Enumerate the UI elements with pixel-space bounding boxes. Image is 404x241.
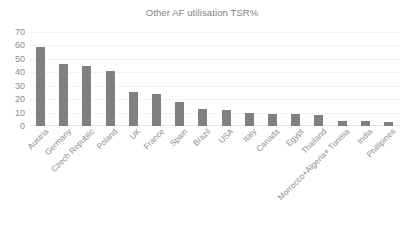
bar xyxy=(384,122,393,126)
bar xyxy=(129,92,138,126)
x-axis-tick-label: India xyxy=(356,127,375,146)
x-axis-tick-label: Poland xyxy=(95,127,119,151)
y-axis-tick-label: 60 xyxy=(0,41,25,50)
x-axis: AustriaGermanyCzech RepublicPolandUKFran… xyxy=(29,127,400,237)
y-axis-tick-label: 50 xyxy=(0,54,25,63)
x-axis-tick-label: France xyxy=(142,127,166,151)
y-axis: 010203040506070 xyxy=(0,32,25,126)
bar xyxy=(268,114,277,126)
bar xyxy=(222,110,231,126)
x-axis-tick-label: UK xyxy=(128,127,142,141)
y-axis-tick-label: 10 xyxy=(0,108,25,117)
x-axis-tick-label: Italy xyxy=(242,127,259,144)
bar xyxy=(245,113,254,126)
y-axis-tick-label: 30 xyxy=(0,81,25,90)
bar xyxy=(59,64,68,126)
x-axis-tick-label: USA xyxy=(217,127,235,145)
y-axis-tick-label: 20 xyxy=(0,95,25,104)
y-axis-tick-label: 40 xyxy=(0,68,25,77)
bar xyxy=(338,121,347,126)
bar xyxy=(152,94,161,126)
bar xyxy=(106,71,115,126)
bar xyxy=(361,121,370,126)
x-axis-tick-label: Spain xyxy=(168,127,189,148)
y-axis-tick-label: 0 xyxy=(0,122,25,131)
chart-title: Other AF utilisation TSR% xyxy=(0,7,404,18)
bar xyxy=(82,66,91,126)
bar xyxy=(314,115,323,126)
bar xyxy=(36,47,45,126)
bars-group xyxy=(29,32,400,126)
bar xyxy=(198,109,207,126)
bar-chart: Other AF utilisation TSR% 01020304050607… xyxy=(0,0,404,241)
x-axis-tick-label: Czech Republic xyxy=(49,127,96,174)
bar xyxy=(175,102,184,126)
x-axis-tick-label: Egypt xyxy=(284,127,305,148)
bar xyxy=(291,114,300,126)
x-axis-tick-label: Brazil xyxy=(191,127,212,148)
y-axis-tick-label: 70 xyxy=(0,28,25,37)
x-axis-tick-label: Canada xyxy=(255,127,282,154)
